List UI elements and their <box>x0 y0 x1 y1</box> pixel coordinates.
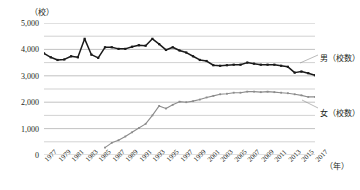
leader-line-male <box>300 55 318 63</box>
legend-label-female: 女（校数） <box>320 107 360 118</box>
leader-line-female <box>302 100 318 108</box>
legend-label-male: 男（校数） <box>320 52 360 63</box>
